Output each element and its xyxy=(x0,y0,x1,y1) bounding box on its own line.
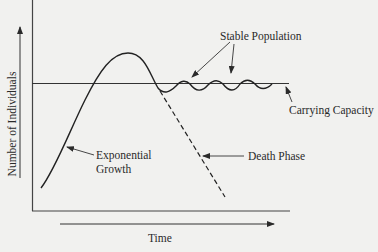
exponential-label: Exponential xyxy=(96,149,152,162)
exponential-arrow xyxy=(67,147,94,155)
growth-label: Growth xyxy=(96,163,131,176)
carrying-arrow xyxy=(286,87,292,102)
y-axis-label: Number of Individuals xyxy=(6,68,18,180)
carrying-capacity-label: Carrying Capacity xyxy=(289,104,374,117)
stable-arrow-2 xyxy=(231,44,234,73)
x-axis-label: Time xyxy=(148,232,172,245)
population-growth-diagram xyxy=(0,0,378,252)
stable-population-label: Stable Population xyxy=(220,30,301,43)
stable-arrow-1 xyxy=(192,42,230,77)
death-phase-line xyxy=(160,91,225,197)
death-phase-label: Death Phase xyxy=(248,150,305,163)
population-curve xyxy=(41,53,272,188)
